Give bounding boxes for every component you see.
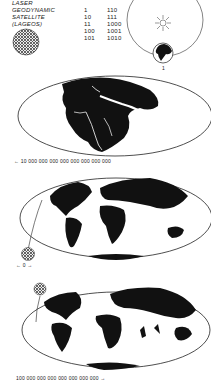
binary-number: 110	[107, 7, 122, 14]
past-time-label: ← 10 000 000 000 000 000 000 000 000	[14, 158, 111, 164]
lageos-satellite-present-icon	[22, 248, 35, 261]
earth-label: 1	[162, 65, 165, 71]
title-line: (LAGEOS)	[12, 21, 55, 28]
title-line: SATELLITE	[12, 14, 55, 21]
binary-number: 10	[84, 14, 95, 21]
past-supercontinent-map	[18, 76, 211, 156]
future-time-label: 100 000 000 000 000 000 000 000 →	[16, 375, 105, 381]
lageos-plaque-diagram: 1	[0, 0, 211, 388]
binary-number: 1001	[107, 28, 122, 35]
future-world-map	[22, 288, 210, 370]
sun-icon	[155, 15, 171, 31]
title-line: LASER	[12, 0, 55, 7]
lageos-satellite-future-icon	[34, 283, 46, 295]
binary-column-2: 110 111 1000 1001 1010	[107, 7, 122, 42]
binary-number: 11	[84, 21, 95, 28]
title-line: GEODYNAMIC	[12, 7, 55, 14]
binary-number: 1	[84, 7, 95, 14]
earth-icon	[153, 43, 173, 63]
satellite-title: LASER GEODYNAMIC SATELLITE (LAGEOS)	[12, 0, 55, 28]
binary-number: 1000	[107, 21, 122, 28]
present-world-map	[20, 178, 211, 260]
binary-column-1: 1 10 11 100 101	[84, 7, 95, 42]
lageos-satellite-icon	[13, 29, 39, 55]
binary-number: 101	[84, 35, 95, 42]
binary-number: 111	[107, 14, 122, 21]
binary-number: 100	[84, 28, 95, 35]
present-time-label: ← 0 →	[16, 262, 33, 268]
binary-number: 1010	[107, 35, 122, 42]
